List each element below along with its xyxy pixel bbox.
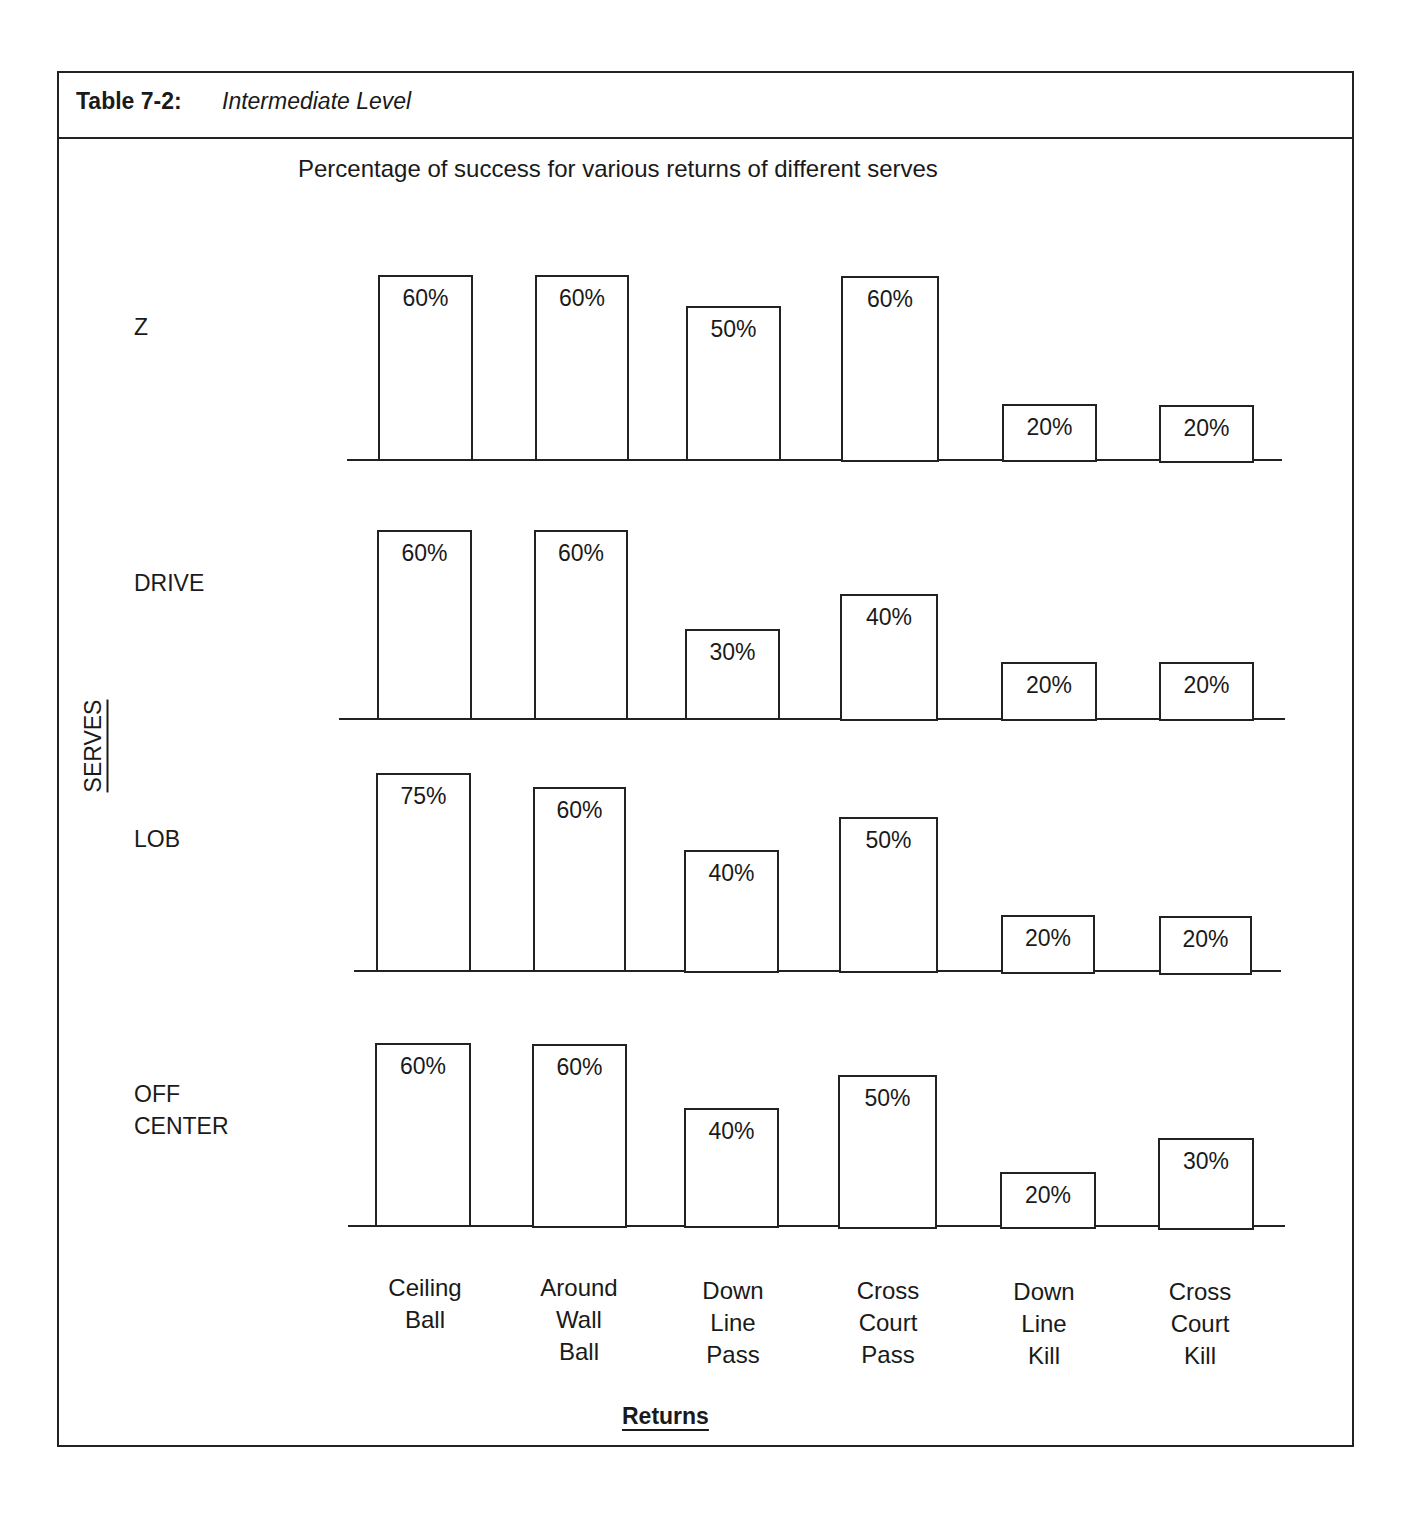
bar: 20%	[1159, 662, 1254, 721]
bar: 20%	[1159, 405, 1254, 463]
bar: 40%	[684, 1108, 779, 1228]
bar: 20%	[1002, 404, 1097, 462]
row-label-lob: LOB	[134, 823, 180, 855]
chart-title: Percentage of success for various return…	[298, 155, 938, 183]
bar: 60%	[375, 1043, 471, 1227]
table-frame	[57, 71, 1354, 1447]
row-label-z: Z	[134, 311, 148, 343]
category-label-down-line-kill: Down Line Kill	[979, 1276, 1109, 1372]
row-baseline	[348, 1225, 1285, 1227]
bar: 20%	[1000, 1172, 1096, 1229]
category-label-cross-court-pass: Cross Court Pass	[823, 1275, 953, 1371]
bar: 20%	[1159, 916, 1252, 975]
bar: 60%	[378, 275, 473, 461]
category-label-down-line-pass: Down Line Pass	[668, 1275, 798, 1371]
row-baseline	[347, 459, 1282, 461]
table-subtitle: Intermediate Level	[222, 88, 411, 115]
bar: 20%	[1001, 915, 1095, 974]
category-label-ceiling-ball: Ceiling Ball	[360, 1272, 490, 1336]
x-axis-title: Returns	[622, 1403, 709, 1430]
bar: 50%	[686, 306, 781, 461]
bar: 60%	[841, 276, 939, 462]
bar: 60%	[534, 530, 628, 720]
bar: 20%	[1001, 662, 1097, 721]
category-label-cross-court-kill: Cross Court Kill	[1135, 1276, 1265, 1372]
bar: 60%	[532, 1044, 627, 1228]
table-number: Table 7-2:	[76, 88, 182, 115]
bar: 40%	[684, 850, 779, 973]
bar: 75%	[376, 773, 471, 972]
header-divider	[57, 137, 1354, 139]
row-baseline	[339, 718, 1285, 720]
category-label-around-wall-ball: Around Wall Ball	[514, 1272, 644, 1368]
row-label-drive: DRIVE	[134, 567, 204, 599]
bar: 60%	[533, 787, 626, 972]
bar: 30%	[1158, 1138, 1254, 1230]
bar: 50%	[838, 1075, 937, 1229]
bar: 50%	[839, 817, 938, 973]
bar: 40%	[840, 594, 938, 721]
row-baseline	[354, 970, 1281, 972]
bar: 30%	[685, 629, 780, 720]
y-axis-title: SERVES	[76, 690, 110, 802]
bar: 60%	[377, 530, 472, 720]
bar: 60%	[535, 275, 629, 461]
row-label-off-center: OFF CENTER	[134, 1078, 229, 1142]
